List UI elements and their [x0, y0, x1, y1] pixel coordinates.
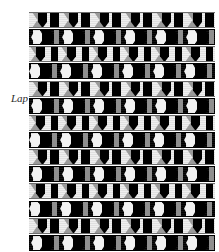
row-rule-bottom — [29, 233, 215, 234]
weave-cell — [153, 63, 184, 79]
warp-bar — [82, 183, 89, 199]
weft-connector — [209, 166, 214, 182]
weave-cell — [60, 201, 91, 217]
warp-bar — [113, 115, 120, 131]
weave-cell — [184, 98, 215, 114]
warp-bar — [112, 149, 121, 165]
weave-cell — [29, 63, 60, 79]
weave-cell — [29, 46, 60, 62]
warp-bar — [143, 149, 152, 165]
weave-cell — [122, 132, 153, 148]
weft-connector — [178, 235, 183, 251]
warp-bar — [206, 46, 213, 62]
weave-cell — [91, 115, 122, 131]
weave-cell — [91, 63, 122, 79]
warp-bar — [144, 183, 151, 199]
weft-connector — [116, 29, 121, 45]
weave-cell — [184, 46, 215, 62]
warp-bar — [175, 183, 182, 199]
weft-connector — [52, 201, 57, 217]
warp-bar — [50, 12, 59, 28]
warp-bar — [50, 81, 59, 97]
weave-row — [29, 132, 215, 148]
weave-cell — [29, 183, 60, 199]
weave-cell — [153, 46, 184, 62]
weave-cell — [29, 218, 60, 234]
weave-cell — [122, 81, 153, 97]
weave-row — [29, 115, 215, 131]
weft-connector — [207, 201, 212, 217]
weave-cell — [29, 149, 60, 165]
weave-row — [29, 149, 215, 165]
weave-cell — [184, 12, 215, 28]
weave-row — [29, 235, 215, 251]
weave-row — [29, 98, 215, 114]
weave-cell — [91, 218, 122, 234]
row-rule-bottom — [29, 96, 215, 97]
weft-connector — [178, 166, 183, 182]
weave-cell — [122, 115, 153, 131]
warp-bar — [112, 81, 121, 97]
weave-cell — [153, 235, 184, 251]
row-rule-bottom — [29, 250, 215, 251]
row-rule-bottom — [29, 147, 215, 148]
warp-bar — [50, 218, 59, 234]
weave-cell — [60, 218, 91, 234]
warp-bar — [144, 46, 151, 62]
row-rule-top — [29, 98, 215, 99]
warp-bar — [112, 218, 121, 234]
warp-bar — [82, 46, 89, 62]
row-rule-top — [29, 12, 215, 13]
weave-cell — [29, 12, 60, 28]
weft-connector — [176, 63, 181, 79]
row-rule-top — [29, 183, 215, 184]
warp-bar — [174, 81, 183, 97]
weft-connector — [147, 98, 152, 114]
weft-connector — [54, 235, 59, 251]
warp-bar — [81, 81, 90, 97]
warp-bar — [174, 149, 183, 165]
warp-bar — [206, 115, 213, 131]
weave-cell — [91, 81, 122, 97]
weave-cell — [60, 183, 91, 199]
weave-cell — [29, 29, 60, 45]
weft-connector — [145, 132, 150, 148]
weave-cell — [122, 166, 153, 182]
weft-connector — [147, 29, 152, 45]
warp-bar — [143, 12, 152, 28]
row-rule-top — [29, 115, 215, 116]
weave-cell — [60, 81, 91, 97]
weave-row — [29, 218, 215, 234]
weave-cell — [91, 166, 122, 182]
warp-bar — [51, 46, 58, 62]
weft-connector — [114, 63, 119, 79]
warp-bar — [81, 149, 90, 165]
weave-cell — [91, 201, 122, 217]
weave-cell — [91, 46, 122, 62]
weave-row — [29, 12, 215, 28]
warp-bar — [50, 149, 59, 165]
weave-cell — [153, 183, 184, 199]
weft-connector — [207, 63, 212, 79]
weft-connector — [207, 132, 212, 148]
weave-cell — [122, 149, 153, 165]
weft-connector — [85, 98, 90, 114]
warp-bar — [143, 81, 152, 97]
weft-connector — [83, 63, 88, 79]
weave-cell — [60, 63, 91, 79]
row-rule-bottom — [29, 44, 215, 45]
weave-cell — [29, 115, 60, 131]
weft-connector — [54, 98, 59, 114]
row-rule-top — [29, 218, 215, 219]
weft-connector — [145, 63, 150, 79]
warp-bar — [81, 12, 90, 28]
weave-cell — [122, 29, 153, 45]
weft-connector — [178, 29, 183, 45]
weave-cell — [60, 132, 91, 148]
weave-cell — [184, 115, 215, 131]
weave-row — [29, 201, 215, 217]
weave-cell — [184, 166, 215, 182]
weft-connector — [85, 235, 90, 251]
weave-cell — [184, 183, 215, 199]
weft-connector — [52, 132, 57, 148]
